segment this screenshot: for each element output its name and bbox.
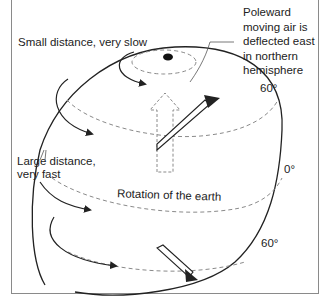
label-poleward-line-5: hemisphere: [243, 63, 315, 78]
label-small-distance: Small distance, very slow: [18, 36, 147, 49]
label-poleward-line-3: deflected east: [243, 34, 315, 49]
label-large-distance-line-2: very fast: [17, 168, 96, 181]
label-large-distance: Large distance, very fast: [17, 155, 96, 181]
deflected-arrow-north: [157, 95, 220, 150]
label-lat-60-north: 60°: [260, 82, 277, 95]
label-lat-60-south: 60°: [261, 237, 278, 250]
label-lat-0: 0°: [284, 163, 295, 176]
label-large-distance-line-1: Large distance,: [17, 155, 96, 168]
small-distance-arrow: [119, 52, 145, 84]
label-poleward-line-4: in northern: [243, 49, 315, 64]
north-pole-dot: [163, 54, 173, 61]
label-poleward: Poleward moving air is deflected east in…: [243, 5, 315, 78]
label-poleward-line-1: Poleward: [243, 5, 315, 20]
deflected-arrow-south: [157, 245, 198, 282]
label-poleward-line-2: moving air is: [243, 20, 315, 35]
